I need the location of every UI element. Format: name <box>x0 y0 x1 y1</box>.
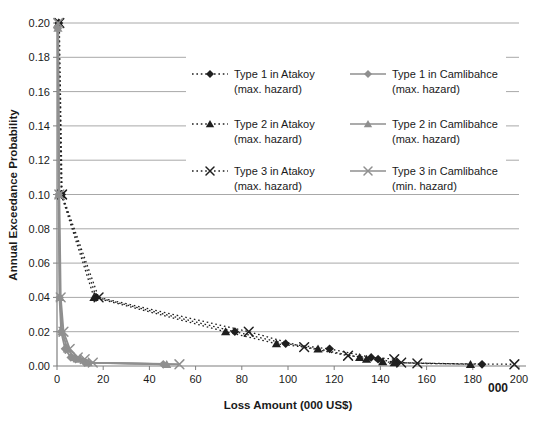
legend-label: Type 1 in Atakoy <box>234 67 315 82</box>
legend-item-type3-camlibahce: Type 3 in Camlibahce (min. hazard) <box>350 164 498 194</box>
legend-item-type3-atakoy: Type 3 in Atakoy (max. hazard) <box>192 164 315 194</box>
x-marker-icon <box>192 164 228 178</box>
y-tick-label: 0.16 <box>29 86 50 98</box>
legend-qualifier: (max. hazard) <box>392 82 498 97</box>
legend-sample-marker <box>364 70 372 78</box>
legend-sample-line-icon <box>350 164 386 182</box>
legend-item-type2-camlibahce: Type 2 in Camlibahce (max. hazard) <box>350 117 498 147</box>
x-axis-title: Loss Amount (000 US$) <box>57 399 519 411</box>
series-line-5 <box>58 23 179 364</box>
legend-qualifier: (max. hazard) <box>234 179 315 194</box>
legend-qualifier: (max. hazard) <box>392 132 498 147</box>
y-tick-label: 0.06 <box>29 257 50 269</box>
legend-sample-line-icon <box>350 117 386 135</box>
legend-sample-line-icon <box>192 164 228 182</box>
x-tick-label: 60 <box>189 373 201 385</box>
legend-sample-marker <box>206 120 214 127</box>
y-tick-label: 0.12 <box>29 154 50 166</box>
legend-label: Type 3 in Camlibahce <box>392 164 498 179</box>
x-tick-label: 140 <box>371 373 389 385</box>
x-tick-label: 40 <box>143 373 155 385</box>
x-tick-label: 120 <box>325 373 343 385</box>
diamond-marker-icon <box>350 67 386 81</box>
legend-sample-marker <box>206 167 214 175</box>
y-tick-label: 0.10 <box>29 189 50 201</box>
legend-label: Type 2 in Camlibahce <box>392 117 498 132</box>
y-tick-label: 0.18 <box>29 51 50 63</box>
y-tick-label: 0.02 <box>29 326 50 338</box>
legend-label: Type 3 in Atakoy <box>234 164 315 179</box>
x-axis-note: 000 <box>478 381 518 395</box>
series-line-3 <box>58 28 164 364</box>
exceedance-probability-chart: 0.000.020.040.060.080.100.120.140.160.18… <box>0 0 545 429</box>
legend-qualifier: (max. hazard) <box>234 82 315 97</box>
diamond-marker-icon <box>192 67 228 81</box>
x-tick-label: 0 <box>54 373 60 385</box>
y-tick-label: 0.04 <box>29 291 50 303</box>
legend-item-type1-camlibahce: Type 1 in Camlibahce (max. hazard) <box>350 67 498 97</box>
y-axis-title: Annual Exceedance Probability <box>7 109 19 280</box>
x-tick-label: 100 <box>279 373 297 385</box>
legend-label: Type 2 in Atakoy <box>234 117 315 132</box>
legend-sample-marker <box>206 70 214 78</box>
legend-sample-line-icon <box>192 117 228 135</box>
legend-qualifier: (min. hazard) <box>392 179 498 194</box>
x-tick-label: 20 <box>97 373 109 385</box>
series-line-4 <box>58 28 167 364</box>
data-point-marker-0 <box>281 339 290 348</box>
legend-sample-line-icon <box>350 67 386 85</box>
legend-qualifier: (max. hazard) <box>234 132 315 147</box>
y-tick-label: 0.08 <box>29 223 50 235</box>
y-tick-label: 0.00 <box>29 360 50 372</box>
y-tick-label: 0.20 <box>29 17 50 29</box>
legend-item-type1-atakoy: Type 1 in Atakoy (max. hazard) <box>192 67 315 97</box>
triangle-marker-icon <box>192 117 228 131</box>
x-tick-label: 80 <box>236 373 248 385</box>
legend-sample-line-icon <box>192 67 228 85</box>
legend-label: Type 1 in Camlibahce <box>392 67 498 82</box>
triangle-marker-icon <box>350 117 386 131</box>
x-tick-label: 160 <box>417 373 435 385</box>
chart-legend: Type 1 in Atakoy (max. hazard) Type 2 in… <box>186 52 506 193</box>
legend-item-type2-atakoy: Type 2 in Atakoy (max. hazard) <box>192 117 315 147</box>
x-marker-icon <box>350 164 386 178</box>
y-tick-label: 0.14 <box>29 120 50 132</box>
